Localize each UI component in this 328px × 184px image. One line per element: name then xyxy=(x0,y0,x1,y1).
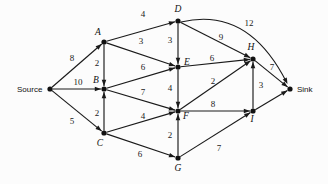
edge-d-to-e-arrowhead xyxy=(176,58,181,64)
edge-g-to-i xyxy=(180,113,250,157)
node-g-label: G xyxy=(175,163,182,173)
node-b-dot xyxy=(101,86,106,91)
edge-a-to-d-arrowhead xyxy=(169,21,176,25)
edge-c-to-f-arrowhead xyxy=(169,111,176,115)
node-a[interactable]: A xyxy=(94,27,107,45)
node-e-label: E xyxy=(183,57,190,67)
edge-d-to-sink-weight: 12 xyxy=(245,18,254,28)
node-h[interactable]: H xyxy=(247,42,256,62)
edge-b-to-e-arrowhead xyxy=(169,67,176,71)
edge-c-to-g-arrowhead xyxy=(169,153,176,157)
node-c-dot xyxy=(101,130,106,135)
edge-source-to-b-weight: 10 xyxy=(74,77,84,87)
edge-g-to-f-arrowhead xyxy=(176,114,181,120)
edge-f-to-i-weight: 8 xyxy=(211,99,216,109)
edge-d-to-h-arrowhead xyxy=(244,53,251,58)
node-f-dot xyxy=(175,108,180,113)
edge-e-to-h xyxy=(181,59,250,66)
edge-c-to-b-weight: 2 xyxy=(95,108,100,118)
node-f-label: F xyxy=(182,111,189,121)
node-source[interactable]: Source xyxy=(17,85,53,94)
edge-b-to-f-arrowhead xyxy=(169,106,176,110)
node-h-dot xyxy=(250,56,255,61)
edge-b-to-e-weight: 6 xyxy=(141,62,146,72)
edge-c-to-f-weight: 4 xyxy=(141,111,146,121)
node-c-label: C xyxy=(97,138,104,148)
node-d[interactable]: D xyxy=(174,4,182,24)
node-h-label: H xyxy=(247,42,256,52)
edge-a-to-b-weight: 2 xyxy=(95,58,100,68)
edge-g-to-i-weight: 7 xyxy=(217,143,222,153)
edge-i-to-h-weight: 3 xyxy=(259,80,264,90)
edge-i-to-sink-arrowhead xyxy=(281,91,288,96)
edge-f-to-h xyxy=(180,61,250,110)
edge-h-to-sink-weight: 7 xyxy=(270,62,275,72)
node-g-dot xyxy=(175,155,180,160)
edge-f-to-h-weight: 2 xyxy=(211,76,216,86)
node-source-dot xyxy=(47,86,52,91)
edge-a-to-e-arrowhead xyxy=(169,62,176,66)
node-c[interactable]: C xyxy=(97,130,107,148)
edge-e-to-h-weight: 6 xyxy=(210,53,215,63)
node-i-dot xyxy=(250,108,255,113)
edge-c-to-b-arrowhead xyxy=(102,92,107,98)
node-source-label: Source xyxy=(17,85,43,94)
edge-c-to-g-weight: 6 xyxy=(138,149,143,159)
edge-a-to-b-arrowhead xyxy=(102,80,107,86)
node-g[interactable]: G xyxy=(175,155,182,173)
node-d-label: D xyxy=(174,4,182,14)
node-a-label: A xyxy=(94,27,101,37)
edge-d-to-h-weight: 9 xyxy=(219,32,224,42)
edge-source-to-c-weight: 5 xyxy=(70,116,75,126)
flow-network-diagram: SourceABCDEFGHISink 81052436724639124628… xyxy=(0,0,328,184)
edge-a-to-d-weight: 4 xyxy=(141,9,146,19)
edge-d-to-h xyxy=(180,22,250,57)
node-i-label: I xyxy=(249,114,254,124)
node-sink-label: Sink xyxy=(297,85,314,94)
edge-f-to-i-arrowhead xyxy=(244,109,250,114)
node-i[interactable]: I xyxy=(249,108,255,124)
edge-a-to-e-weight: 3 xyxy=(139,36,144,46)
node-b-label: B xyxy=(93,75,99,85)
edge-g-to-f-weight: 2 xyxy=(168,130,173,140)
node-a-dot xyxy=(101,39,106,44)
edge-source-to-a-weight: 8 xyxy=(70,53,75,63)
edge-e-to-f-weight: 4 xyxy=(168,83,173,93)
edge-b-to-f-weight: 7 xyxy=(141,87,146,97)
graph-canvas: SourceABCDEFGHISink 81052436724639124628… xyxy=(0,0,328,184)
node-d-dot xyxy=(175,18,180,23)
edge-source-to-b-arrowhead xyxy=(95,87,101,92)
node-sink-dot xyxy=(287,86,292,91)
edge-i-to-h-arrowhead xyxy=(251,62,256,68)
node-sink[interactable]: Sink xyxy=(287,85,313,94)
edge-d-to-e-weight: 3 xyxy=(168,35,173,45)
node-e-dot xyxy=(175,64,180,69)
edge-e-to-f-arrowhead xyxy=(176,102,181,108)
